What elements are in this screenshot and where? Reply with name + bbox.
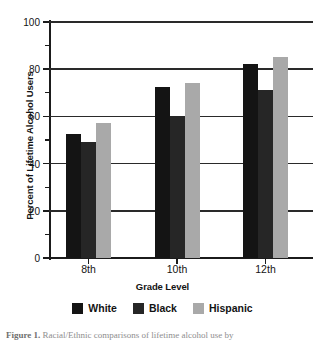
legend-swatch xyxy=(133,303,144,314)
x-axis-tick-label: 8th xyxy=(81,263,96,275)
y-axis-minor-tick xyxy=(45,92,49,93)
y-axis-major-tick xyxy=(43,210,49,212)
legend-swatch xyxy=(72,303,83,314)
x-axis-title: Grade Level xyxy=(0,281,325,292)
bar xyxy=(170,116,185,258)
y-axis-tick-label: 80 xyxy=(29,64,40,75)
bar xyxy=(258,90,273,258)
legend-label: Black xyxy=(149,302,177,314)
legend-item: White xyxy=(72,302,117,314)
y-axis-major-tick xyxy=(43,116,49,118)
bar xyxy=(66,134,81,258)
y-axis-minor-tick xyxy=(45,45,49,46)
y-axis-tick-label: 60 xyxy=(29,111,40,122)
y-axis-major-tick xyxy=(43,163,49,165)
gridline xyxy=(49,21,313,23)
y-axis-tick-label: 20 xyxy=(29,205,40,216)
plot-area: 020406080100 xyxy=(49,22,313,258)
y-axis-tick-label: 40 xyxy=(29,158,40,169)
y-axis-major-tick xyxy=(43,257,49,259)
legend-item: Black xyxy=(133,302,177,314)
bar xyxy=(243,64,258,258)
bar xyxy=(185,83,200,258)
bar xyxy=(96,123,111,258)
bar xyxy=(155,87,170,258)
y-axis-minor-tick xyxy=(45,139,49,140)
figure-caption: Figure 1. Racial/Ethnic comparisons of l… xyxy=(6,330,325,340)
bar xyxy=(81,142,96,258)
y-axis-tick-label: 0 xyxy=(34,253,40,264)
figure-caption-text: Racial/Ethnic comparisons of lifetime al… xyxy=(40,330,233,340)
y-axis-minor-tick xyxy=(45,234,49,235)
y-axis-minor-tick xyxy=(45,187,49,188)
legend-label: Hispanic xyxy=(209,302,253,314)
x-axis-tick-label: 12th xyxy=(255,263,275,275)
x-axis-tick-label: 10th xyxy=(167,263,187,275)
chart-legend: WhiteBlackHispanic xyxy=(0,302,325,314)
y-axis-tick-label: 100 xyxy=(23,17,40,28)
y-axis-major-tick xyxy=(43,68,49,70)
bar xyxy=(273,57,288,258)
legend-swatch xyxy=(193,303,204,314)
y-axis-major-tick xyxy=(43,21,49,23)
legend-label: White xyxy=(88,302,117,314)
legend-item: Hispanic xyxy=(193,302,253,314)
figure-caption-number: Figure 1. xyxy=(6,330,40,340)
